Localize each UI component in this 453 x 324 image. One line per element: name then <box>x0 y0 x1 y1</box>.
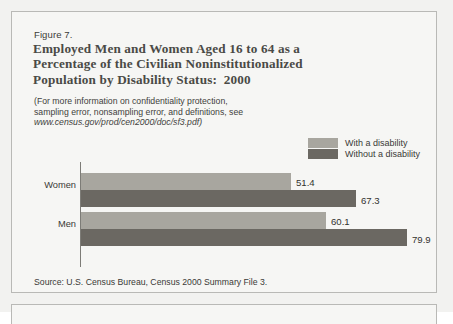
value-label-women-without-disability: 67.3 <box>361 195 380 206</box>
bar-men-without-disability <box>81 229 407 246</box>
next-figure-panel <box>11 304 437 324</box>
bar-chart-plot-area: Women Men 51.4 67.3 60.1 79.9 <box>12 12 438 294</box>
bar-women-with-disability <box>81 173 291 190</box>
value-label-men-without-disability: 79.9 <box>412 234 431 245</box>
source-note: Source: U.S. Census Bureau, Census 2000 … <box>34 277 267 287</box>
category-label-men: Men <box>28 219 76 229</box>
figure-panel: Figure 7. Employed Men and Women Aged 16… <box>11 11 437 293</box>
bar-men-with-disability <box>81 212 326 229</box>
value-label-men-with-disability: 60.1 <box>331 216 350 227</box>
bar-women-without-disability <box>81 190 356 207</box>
value-label-women-with-disability: 51.4 <box>296 177 315 188</box>
category-label-women: Women <box>28 180 76 190</box>
